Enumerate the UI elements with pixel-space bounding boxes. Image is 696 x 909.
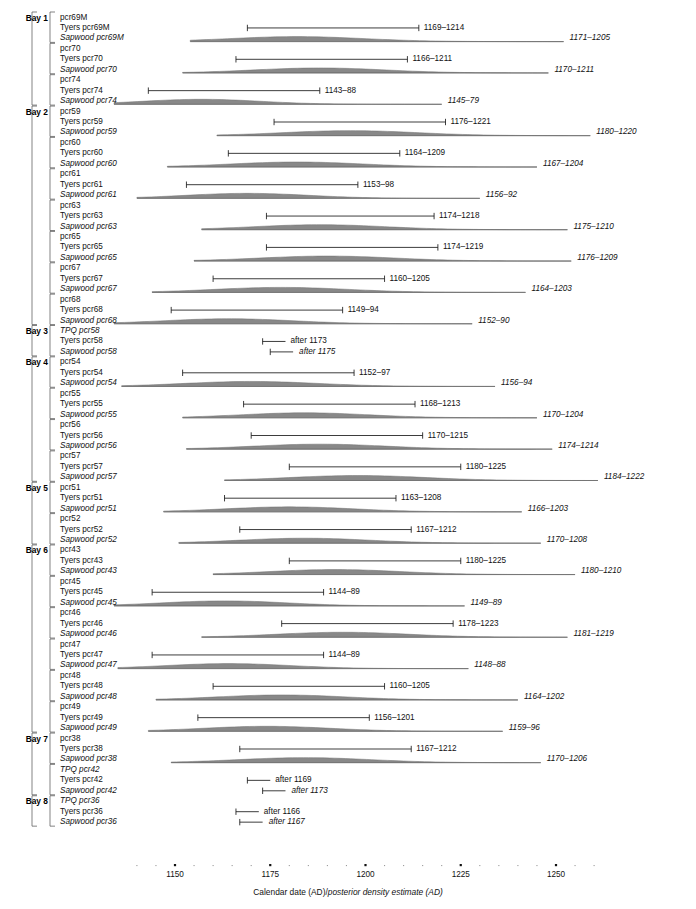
- axis-minor-tick: [536, 865, 537, 866]
- axis-tick-label: 1200: [356, 870, 374, 879]
- sapwood-row-label: Sapwood pcr46: [60, 629, 117, 638]
- sapwood-range-value: 1167–1204: [543, 159, 583, 168]
- axis-major-tick: [460, 864, 462, 866]
- sample-name-label: pcr69M: [60, 13, 87, 22]
- tyers-range-value: after 1173: [290, 336, 326, 345]
- sample-name-label: pcr65: [60, 232, 80, 241]
- sapwood-row-label: Sapwood pcr43: [60, 566, 117, 575]
- tyers-row-label: Tyers pcr63: [60, 211, 103, 220]
- tyers-range-value: 1180–1225: [466, 462, 506, 471]
- tyers-range-value: 1180–1225: [466, 556, 506, 565]
- tyers-range-bar: [148, 87, 319, 93]
- tyers-row-label: Tyers pcr42: [60, 775, 103, 784]
- sample-name-label: pcr47: [60, 640, 80, 649]
- axis-caption: Calendar date (AD)/posterior density est…: [253, 887, 442, 897]
- bay-label: Bay 7: [0, 734, 48, 744]
- tyers-range-bar: [236, 56, 407, 62]
- axis-major-tick: [555, 864, 557, 866]
- posterior-density-curve: [183, 68, 549, 73]
- posterior-density-curve: [171, 758, 541, 763]
- tyers-range-bar: [152, 652, 323, 658]
- axis-minor-tick: [498, 865, 499, 866]
- posterior-density-curve: [190, 37, 563, 42]
- sapwood-row-label: Sapwood pcr68: [60, 316, 117, 325]
- group-bracket: [50, 326, 55, 356]
- tyers-range-value: 1178–1223: [458, 619, 498, 628]
- axis-caption-plain: Calendar date (AD)/: [253, 887, 327, 897]
- tyers-range-value: 1166–1211: [412, 54, 452, 63]
- sapwood-row-label: Sapwood pcr74: [60, 96, 117, 105]
- tyers-range-value: 1144–89: [329, 587, 360, 596]
- sapwood-row-label: Sapwood pcr55: [60, 410, 117, 419]
- sapwood-range-value: 1149–89: [471, 598, 502, 607]
- group-bracket: [50, 576, 55, 606]
- axis-minor-tick: [194, 865, 195, 866]
- sample-name-label: pcr74: [60, 75, 80, 84]
- sample-name-label: pcr61: [60, 169, 80, 178]
- sample-name-label: pcr54: [60, 357, 80, 366]
- tyers-range-bar: [274, 119, 445, 125]
- group-bracket: [50, 263, 55, 293]
- tyers-range-bar: [289, 558, 460, 564]
- tyers-range-value: 1160–1205: [390, 681, 430, 690]
- tyers-range-value: 1163–1208: [401, 493, 441, 502]
- sapwood-range-value: 1181–1219: [573, 629, 613, 638]
- tyers-range-value: 1149–94: [348, 305, 379, 314]
- sapwood-range-bar: [263, 788, 286, 794]
- axis-minor-tick: [232, 865, 233, 866]
- posterior-density-curve: [186, 444, 552, 449]
- group-bracket: [50, 137, 55, 167]
- sapwood-range-value: 1164–1203: [532, 284, 572, 293]
- axis-minor-tick: [346, 865, 347, 866]
- tyers-range-bar: [240, 526, 411, 532]
- group-bracket: [50, 231, 55, 261]
- tyers-range-bar: [152, 589, 323, 595]
- tyers-range-value: 1176–1221: [451, 117, 491, 126]
- tyers-range-value: 1167–1212: [416, 744, 456, 753]
- sapwood-range-value: 1180–1210: [581, 566, 621, 575]
- sapwood-row-label: Sapwood pcr52: [60, 535, 117, 544]
- tyers-range-bar: [266, 244, 437, 250]
- sapwood-row-label: Sapwood pcr70: [60, 65, 117, 74]
- posterior-density-curve: [202, 225, 568, 230]
- axis-minor-tick: [422, 865, 423, 866]
- tyers-range-value: 1174–1219: [443, 242, 483, 251]
- sapwood-range-value: 1170–1204: [543, 410, 583, 419]
- group-bracket: [50, 482, 55, 512]
- tyers-row-label: Tyers pcr48: [60, 681, 103, 690]
- tyers-row-label: Tyers pcr38: [60, 744, 103, 753]
- posterior-density-curve: [114, 99, 442, 104]
- sample-name-label: pcr59: [60, 107, 80, 116]
- tyers-range-value: after 1169: [275, 775, 311, 784]
- axis-tick-label: 1175: [261, 870, 279, 879]
- axis-minor-tick: [251, 865, 252, 866]
- tyers-row-label: Tyers pcr70: [60, 54, 103, 63]
- group-bracket: [50, 357, 55, 387]
- tyers-range-value: 1174–1218: [439, 211, 479, 220]
- posterior-density-curve: [122, 381, 495, 386]
- tyers-row-label: Tyers pcr61: [60, 180, 103, 189]
- bay-label: Bay 5: [0, 483, 48, 493]
- axis-minor-tick: [594, 865, 595, 866]
- sample-name-label: pcr43: [60, 545, 80, 554]
- sapwood-row-label: Sapwood pcr47: [60, 660, 117, 669]
- tyers-row-label: Tyers pcr74: [60, 86, 103, 95]
- posterior-density-curve: [183, 413, 537, 418]
- sapwood-row-label: Sapwood pcr56: [60, 441, 117, 450]
- group-bracket: [50, 702, 55, 732]
- posterior-density-curve: [137, 193, 480, 198]
- sample-name-label: pcr67: [60, 263, 80, 272]
- tyers-range-value: 1152–97: [359, 368, 390, 377]
- bay-label: Bay 2: [0, 107, 48, 117]
- group-bracket: [50, 796, 55, 826]
- group-bracket: [50, 12, 55, 42]
- sapwood-range-value: 1170–1208: [547, 535, 587, 544]
- tyers-row-label: Tyers pcr54: [60, 368, 103, 377]
- tyers-row-label: Tyers pcr69M: [60, 23, 110, 32]
- sample-name-label: pcr45: [60, 577, 80, 586]
- tyers-range-bar: [251, 432, 422, 438]
- tyers-row-label: Tyers pcr60: [60, 148, 103, 157]
- axis-minor-tick: [575, 865, 576, 866]
- sapwood-range-value: 1171–1205: [570, 33, 610, 42]
- tyers-range-value: 1143–88: [325, 86, 356, 95]
